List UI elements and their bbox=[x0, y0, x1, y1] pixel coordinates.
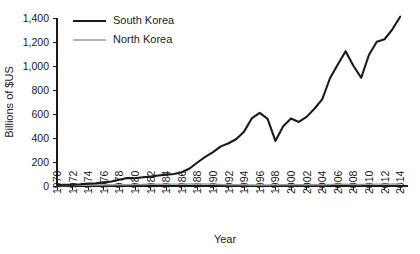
x-tick-label: 2000 bbox=[285, 170, 297, 194]
x-tick-label: 1982 bbox=[145, 170, 157, 194]
line-chart: 02004006008001,0001,2001,400 19701972197… bbox=[0, 0, 420, 254]
legend-label-north-korea: North Korea bbox=[113, 33, 173, 45]
x-axis-title: Year bbox=[214, 233, 237, 245]
x-tick-label: 2004 bbox=[316, 170, 328, 194]
y-tick-label: 400 bbox=[31, 132, 49, 144]
x-tick-label: 1988 bbox=[191, 170, 203, 194]
x-tick-label: 1992 bbox=[223, 170, 235, 194]
x-tick-label: 1990 bbox=[207, 170, 219, 194]
y-tick-label: 1,400 bbox=[23, 12, 49, 24]
x-tick-label: 2002 bbox=[301, 170, 313, 194]
x-tick-label: 1972 bbox=[67, 170, 79, 194]
y-tick-label: 0 bbox=[43, 180, 49, 192]
y-tick-label: 200 bbox=[31, 156, 49, 168]
x-tick-label: 2012 bbox=[379, 170, 391, 194]
y-tick-label: 1,200 bbox=[23, 36, 49, 48]
y-tick-label: 800 bbox=[31, 84, 49, 96]
x-tick-label: 2006 bbox=[332, 170, 344, 194]
x-tick-label: 1996 bbox=[254, 170, 266, 194]
x-tick-label: 1994 bbox=[238, 170, 250, 194]
x-tick-label: 2010 bbox=[363, 170, 375, 194]
y-axis-title: Billions of $US bbox=[3, 66, 15, 138]
y-tick-label: 1,000 bbox=[23, 60, 49, 72]
x-tick-label: 2014 bbox=[394, 170, 406, 194]
y-tick-label: 600 bbox=[31, 108, 49, 120]
x-tick-label: 1974 bbox=[82, 170, 94, 194]
x-tick-label: 2008 bbox=[347, 170, 359, 194]
x-tick-label: 1980 bbox=[129, 170, 141, 194]
series-line-south-korea bbox=[57, 17, 400, 185]
y-axis-ticks: 02004006008001,0001,2001,400 bbox=[23, 12, 57, 192]
chart-legend: South Korea North Korea bbox=[73, 14, 175, 45]
chart-container: 02004006008001,0001,2001,400 19701972197… bbox=[0, 0, 420, 254]
x-tick-label: 1998 bbox=[269, 170, 281, 194]
legend-label-south-korea: South Korea bbox=[113, 14, 175, 26]
x-tick-label: 1978 bbox=[113, 170, 125, 194]
